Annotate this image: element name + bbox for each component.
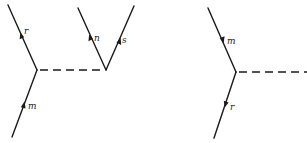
feynman-diagrams: r m n s m r bbox=[0, 0, 307, 143]
label-s: s bbox=[122, 35, 127, 45]
right-feynman-diagram: m r bbox=[208, 8, 307, 138]
label-r-left: r bbox=[24, 26, 29, 36]
label-n: n bbox=[94, 33, 100, 43]
label-m-right: m bbox=[227, 36, 236, 46]
left-feynman-diagram: r m n s bbox=[8, 5, 134, 137]
propagator-s bbox=[106, 6, 134, 70]
label-r-right: r bbox=[230, 102, 235, 112]
label-m-left: m bbox=[28, 101, 37, 111]
